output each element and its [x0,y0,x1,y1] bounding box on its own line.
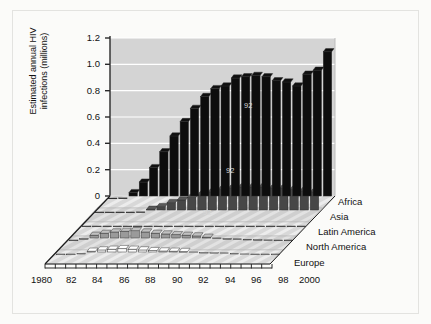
bar-asia-1984 [136,212,144,213]
bar-latin-america-1981 [93,226,101,227]
bar-north-america-1981 [80,239,88,240]
bar-asia-1981 [106,212,114,213]
x-tick-label-94: 94 [225,274,236,285]
x-tick-label-82: 82 [66,274,77,285]
x-tick-label-1980: 1980 [31,274,52,285]
bar-latin-america-2000 [287,226,295,227]
bar-north-america-1999 [264,240,272,241]
x-tick-label-88: 88 [145,274,156,285]
bar-europe-2000 [261,254,269,255]
bar-north-america-2000 [274,240,282,241]
bar-north-america-2001 [284,240,292,241]
bar-north-america-1996 [233,239,241,240]
bar-europe-1994 [200,252,208,253]
bar-europe-1996 [220,253,228,254]
y-tick-label-1_2: 1.2 [74,32,100,43]
y-axis-title-line1: Estimated annual HIV [28,0,39,146]
annotation-africa-lower: 92 [226,166,234,175]
y-axis-title-line2: infections (millions) [39,0,50,146]
bar-latin-america-1989 [175,226,183,227]
series-label-north-america: North America [306,241,366,252]
bar-latin-america-1998 [267,226,275,227]
bar-north-america-1995 [223,239,231,240]
y-axis [105,36,110,198]
bar-europe-1995 [210,253,218,254]
bar-asia-1983 [126,212,134,213]
bar-latin-america-2001 [297,226,305,227]
bar-latin-america-1997 [256,226,264,227]
bar-europe-1982 [77,253,85,254]
y-tick-label-0_6: 0.6 [74,111,100,122]
bar-latin-america-1987 [154,226,162,227]
x-tick-label-86: 86 [119,274,130,285]
bar-north-america-1997 [243,239,251,240]
bar-latin-america-1988 [164,226,172,227]
bar-europe-1999 [251,254,259,255]
x-tick-label-90: 90 [172,274,183,285]
x-tick-label-96: 96 [251,274,262,285]
series-label-europe: Europe [294,257,325,268]
x-tick-label-98: 98 [278,274,289,285]
bar-latin-america-1982 [103,226,111,227]
bar-europe-1993 [189,252,197,253]
y-tick-label-1_0: 1.0 [74,58,100,69]
chart-canvas [0,0,431,324]
bar-europe-1981 [67,254,75,255]
bar-latin-america-1994 [226,226,234,227]
y-tick-label-0_2: 0.2 [74,164,100,175]
series-label-asia: Asia [330,211,348,222]
annotation-asia: 92 [203,208,211,217]
y-axis-title: Estimated annual HIV infections (million… [28,0,50,146]
chart-stage: Estimated annual HIV infections (million… [0,0,431,324]
series-label-africa: Africa [338,196,362,207]
bar-latin-america-1993 [215,226,223,227]
bar-latin-america-1995 [236,226,244,227]
x-tick-label-92: 92 [198,274,209,285]
figure-container: Estimated annual HIV infections (million… [0,0,431,324]
bar-latin-america-1990 [185,226,193,227]
x-tick-label-84: 84 [92,274,103,285]
bar-africa-1980 [109,198,117,199]
bar-latin-america-1992 [205,226,213,227]
bar-latin-america-1999 [277,226,285,227]
bar-latin-america-1996 [246,226,254,227]
bar-north-america-1994 [213,238,221,239]
bar-europe-1998 [241,254,249,255]
x-tick-label-2000: 2000 [299,274,320,285]
bar-latin-america-1985 [134,226,142,227]
bar-latin-america-1983 [113,226,121,227]
x-axis [45,264,272,269]
series-label-latin-america: Latin America [318,226,376,237]
bar-asia-1980 [96,212,104,213]
bar-europe-1980 [57,254,65,255]
y-tick-label-0: 0 [74,190,100,201]
bar-latin-america-1980 [83,226,91,227]
annotation-africa-upper: 92 [244,101,252,110]
bar-north-america-1980 [70,240,78,241]
bar-latin-america-1991 [195,226,203,227]
bar-europe-1997 [230,253,238,254]
bar-africa-1981 [119,198,127,199]
bar-asia-1982 [116,212,124,213]
y-tick-label-0_8: 0.8 [74,85,100,96]
bar-latin-america-1986 [144,226,152,227]
bar-north-america-1998 [254,240,262,241]
y-tick-label-0_4: 0.4 [74,137,100,148]
bar-latin-america-1984 [123,226,131,227]
